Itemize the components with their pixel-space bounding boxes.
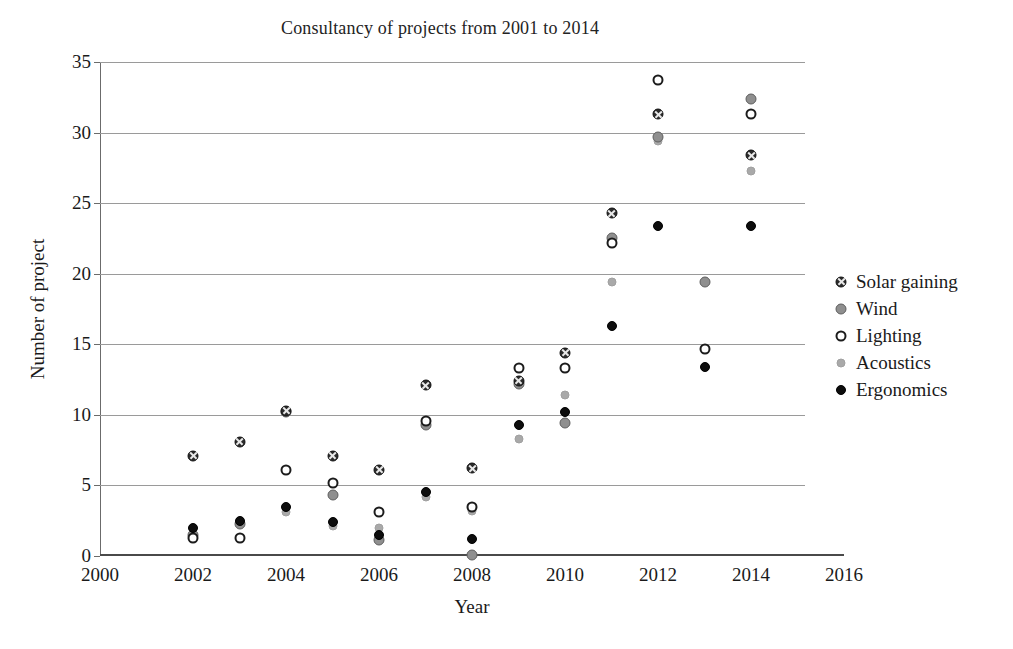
legend-item-label: Ergonomics (856, 379, 947, 401)
data-point-ergonomics (328, 517, 338, 527)
data-point-solar-gaining (606, 208, 617, 219)
x-tick-label: 2012 (618, 564, 698, 586)
data-point-solar-gaining (560, 347, 571, 358)
data-point-solar-gaining (467, 463, 478, 474)
legend-item-label: Solar gaining (856, 271, 958, 293)
legend-item-label: Wind (856, 298, 897, 320)
x-tick-label: 2010 (525, 564, 605, 586)
data-point-lighting (374, 507, 385, 518)
y-tick-mark (94, 203, 100, 204)
data-point-lighting (420, 415, 431, 426)
x-tick-label: 2014 (711, 564, 791, 586)
data-point-lighting (467, 501, 478, 512)
x-tick-label: 2016 (804, 564, 884, 586)
gridline (100, 62, 805, 63)
y-axis-label: Number of project (27, 239, 49, 379)
y-tick-mark (94, 415, 100, 416)
data-point-solar-gaining (234, 436, 245, 447)
data-point-lighting (234, 532, 245, 543)
data-point-solar-gaining (327, 450, 338, 461)
data-point-solar-gaining (188, 450, 199, 461)
data-point-solar-gaining (513, 375, 524, 386)
data-point-solar-gaining (420, 380, 431, 391)
data-point-acoustics (561, 391, 570, 400)
gridline (100, 415, 805, 416)
lighting-marker-icon (836, 330, 847, 341)
data-point-lighting (513, 363, 524, 374)
data-point-ergonomics (374, 530, 384, 540)
data-point-ergonomics (700, 362, 710, 372)
gridline (100, 274, 805, 275)
data-point-acoustics (607, 278, 616, 287)
gridline (100, 133, 805, 134)
data-point-wind (560, 418, 571, 429)
legend-marker-icon (833, 328, 849, 344)
legend-item-solar-gaining[interactable]: Solar gaining (833, 268, 1008, 295)
acoustics-marker-icon (837, 358, 846, 367)
data-point-solar-gaining (653, 109, 664, 120)
legend-item-ergonomics[interactable]: Ergonomics (833, 376, 1008, 403)
data-point-wind (653, 131, 664, 142)
x-tick-label: 2008 (432, 564, 512, 586)
data-point-lighting (653, 75, 664, 86)
y-tick-mark (94, 556, 100, 557)
data-point-wind (699, 277, 710, 288)
legend-marker-icon (833, 382, 849, 398)
y-tick-label: 25 (31, 192, 91, 214)
data-point-ergonomics (746, 221, 756, 231)
data-point-wind (327, 490, 338, 501)
gridline (100, 485, 805, 486)
legend-item-label: Lighting (856, 325, 921, 347)
plot-area: 05101520253035 2000200220042006200820102… (100, 62, 805, 556)
y-axis-line (100, 62, 101, 556)
y-tick-mark (94, 485, 100, 486)
data-point-ergonomics (421, 487, 431, 497)
data-point-ergonomics (514, 420, 524, 430)
solar-gaining-marker-icon (836, 276, 847, 287)
data-point-lighting (327, 477, 338, 488)
data-point-lighting (281, 464, 292, 475)
y-tick-label: 5 (31, 474, 91, 496)
y-tick-label: 10 (31, 404, 91, 426)
legend-item-wind[interactable]: Wind (833, 295, 1008, 322)
chart-figure: Consultancy of projects from 2001 to 201… (0, 0, 1013, 649)
data-point-ergonomics (653, 221, 663, 231)
gridline (100, 203, 805, 204)
wind-marker-icon (836, 303, 847, 314)
y-tick-mark (94, 344, 100, 345)
y-tick-mark (94, 274, 100, 275)
data-point-wind (467, 549, 478, 560)
data-point-wind (746, 93, 757, 104)
y-tick-label: 30 (31, 122, 91, 144)
x-tick-label: 2000 (60, 564, 140, 586)
legend-item-acoustics[interactable]: Acoustics (833, 349, 1008, 376)
data-point-solar-gaining (281, 405, 292, 416)
legend-item-label: Acoustics (856, 352, 931, 374)
data-point-lighting (560, 363, 571, 374)
x-tick-label: 2002 (153, 564, 233, 586)
y-tick-mark (94, 62, 100, 63)
data-point-ergonomics (235, 516, 245, 526)
data-point-ergonomics (607, 321, 617, 331)
data-point-solar-gaining (374, 464, 385, 475)
chart-title: Consultancy of projects from 2001 to 201… (0, 18, 880, 39)
chart-legend: Solar gainingWindLightingAcousticsErgono… (833, 268, 1008, 403)
data-point-ergonomics (560, 407, 570, 417)
legend-marker-icon (833, 355, 849, 371)
x-tick-label: 2004 (246, 564, 326, 586)
plot-frame: 05101520253035 2000200220042006200820102… (100, 62, 805, 556)
ergonomics-marker-icon (836, 385, 846, 395)
legend-marker-icon (833, 274, 849, 290)
data-point-acoustics (514, 434, 523, 443)
data-point-lighting (699, 343, 710, 354)
y-tick-label: 0 (31, 545, 91, 567)
data-point-lighting (606, 237, 617, 248)
legend-marker-icon (833, 301, 849, 317)
y-tick-label: 35 (31, 51, 91, 73)
data-point-lighting (746, 109, 757, 120)
data-point-lighting (188, 532, 199, 543)
x-axis-label: Year (100, 596, 844, 618)
data-point-solar-gaining (746, 150, 757, 161)
data-point-ergonomics (467, 534, 477, 544)
legend-item-lighting[interactable]: Lighting (833, 322, 1008, 349)
